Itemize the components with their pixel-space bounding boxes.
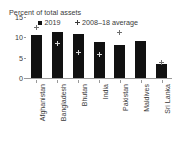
x-tick-label: Sri Lanka <box>164 84 171 114</box>
x-tick-label: Afghanistan <box>39 84 46 121</box>
y-tick-label: 0 <box>9 74 23 83</box>
y-tick-label: 10 <box>9 33 23 42</box>
y-tick-mark <box>24 58 27 59</box>
x-tick-mark <box>99 80 100 83</box>
x-tick-mark <box>78 80 79 83</box>
y-tick-mark <box>24 78 27 79</box>
x-tick-label: India <box>102 84 109 99</box>
chart-figure: Percent of total assets 2019 2008–18 ave… <box>0 0 177 147</box>
x-axis-line <box>26 78 172 79</box>
plot-area <box>26 17 172 79</box>
x-tick-label: Maldives <box>143 84 150 112</box>
average-marker <box>55 41 60 46</box>
average-marker <box>159 60 164 65</box>
bar <box>52 32 63 78</box>
x-tick-label: Bhutan <box>81 84 88 106</box>
y-axis-labels: 051015 <box>8 17 23 79</box>
bar <box>114 45 125 78</box>
average-marker <box>97 52 102 57</box>
bar <box>73 34 84 78</box>
y-tick-mark <box>24 37 27 38</box>
x-tick-mark <box>120 80 121 83</box>
bar <box>31 35 42 78</box>
bar <box>135 41 146 78</box>
x-tick-mark <box>57 80 58 83</box>
x-tick-mark <box>162 80 163 83</box>
y-tick-label: 15 <box>9 13 23 22</box>
x-tick-label: Bangladesh <box>60 84 67 121</box>
average-marker <box>117 30 122 35</box>
x-tick-mark <box>36 80 37 83</box>
y-tick-label: 5 <box>9 53 23 62</box>
average-marker <box>34 25 39 30</box>
bar <box>156 64 167 78</box>
x-tick-mark <box>141 80 142 83</box>
x-axis-labels: AfghanistanBangladeshBhutanIndiaPakistan… <box>26 80 172 146</box>
average-marker <box>76 50 81 55</box>
x-tick-label: Pakistan <box>122 84 129 111</box>
bar <box>94 42 105 78</box>
y-tick-mark <box>24 17 27 18</box>
